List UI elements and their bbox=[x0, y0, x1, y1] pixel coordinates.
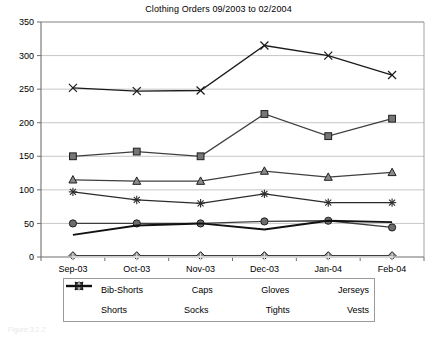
series-caps bbox=[70, 111, 396, 160]
star-marker-icon bbox=[69, 303, 99, 317]
data-point-marker bbox=[196, 199, 204, 207]
square-marker-icon bbox=[70, 153, 77, 160]
legend-item-label: Gloves bbox=[259, 285, 289, 295]
series-line bbox=[73, 114, 392, 156]
legend-item-label: Socks bbox=[182, 305, 209, 315]
data-point-marker bbox=[260, 167, 268, 174]
legend-item-label: Vests bbox=[345, 305, 369, 315]
data-point-marker bbox=[69, 188, 77, 196]
x-marker-icon bbox=[306, 283, 336, 297]
legend-item-socks[interactable]: Socks bbox=[152, 303, 209, 317]
square-marker-icon bbox=[133, 148, 140, 155]
data-point-marker bbox=[389, 115, 396, 122]
y-axis-tick-label: 0 bbox=[29, 252, 34, 262]
legend-item-tights[interactable]: Tights bbox=[234, 303, 290, 317]
y-axis-tick-label: 50 bbox=[24, 219, 34, 229]
series-gloves bbox=[69, 167, 396, 184]
circle-marker-icon bbox=[261, 218, 268, 225]
data-point-marker bbox=[388, 71, 396, 79]
data-point-marker bbox=[69, 220, 76, 227]
x-axis-tick-label: Jan-04 bbox=[314, 264, 342, 274]
circle-marker-icon bbox=[69, 220, 76, 227]
data-point-marker bbox=[324, 198, 332, 206]
legend-item-label: Jerseys bbox=[336, 285, 369, 295]
square-marker-icon bbox=[160, 283, 190, 297]
square-marker-icon bbox=[325, 133, 332, 140]
data-point-marker bbox=[325, 133, 332, 140]
data-point-marker bbox=[261, 218, 268, 225]
data-point-marker bbox=[133, 196, 141, 204]
triangle-marker-icon bbox=[388, 168, 396, 175]
legend-item-label: Tights bbox=[264, 305, 290, 315]
legend-item-jerseys[interactable]: Jerseys bbox=[306, 283, 369, 297]
legend-item-shorts[interactable]: Shorts bbox=[69, 303, 127, 317]
y-axis-tick-label: 350 bbox=[19, 17, 34, 27]
square-marker-icon bbox=[261, 111, 268, 118]
data-point-marker bbox=[133, 148, 140, 155]
data-point-marker bbox=[388, 198, 396, 206]
data-point-marker bbox=[388, 224, 395, 231]
circle-marker-icon bbox=[388, 224, 395, 231]
x-axis-tick-label: Dec-03 bbox=[250, 264, 279, 274]
series-line bbox=[73, 192, 392, 203]
legend-item-caps[interactable]: Caps bbox=[160, 283, 213, 297]
circle-marker-icon bbox=[152, 303, 182, 317]
series-line bbox=[73, 46, 392, 92]
chart-legend: Bib-ShortsCapsGlovesJerseys ShortsSocksT… bbox=[63, 278, 375, 322]
data-point-marker bbox=[388, 168, 396, 175]
series-line bbox=[73, 171, 392, 181]
y-axis-tick-label: 150 bbox=[19, 151, 34, 161]
legend-item-label: Shorts bbox=[99, 305, 127, 315]
square-marker-icon bbox=[389, 115, 396, 122]
y-axis-tick-label: 200 bbox=[19, 118, 34, 128]
data-point-marker bbox=[197, 153, 204, 160]
y-axis-tick-label: 300 bbox=[19, 51, 34, 61]
figure-caption: Figure 3.2.2 bbox=[8, 326, 45, 333]
legend-item-label: Caps bbox=[190, 285, 213, 295]
series-shorts bbox=[69, 188, 397, 208]
y-axis-tick-label: 250 bbox=[19, 84, 34, 94]
x-axis-tick-label: Feb-04 bbox=[378, 264, 407, 274]
triangle-marker-icon bbox=[229, 283, 259, 297]
plus-marker-icon bbox=[234, 303, 264, 317]
triangle-marker-icon bbox=[260, 167, 268, 174]
legend-item-label: Bib-Shorts bbox=[99, 285, 143, 295]
data-point-marker bbox=[260, 190, 268, 198]
series-jerseys bbox=[69, 42, 396, 96]
line-marker-icon bbox=[64, 279, 94, 293]
legend-item-vests[interactable]: Vests bbox=[315, 303, 369, 317]
chart-figure: Clothing Orders 09/2003 to 02/2004 05010… bbox=[0, 0, 437, 338]
x-axis-tick-label: Oct-03 bbox=[123, 264, 150, 274]
square-marker-icon bbox=[197, 153, 204, 160]
line-marker-icon bbox=[315, 303, 345, 317]
data-point-marker bbox=[70, 153, 77, 160]
legend-row-2: ShortsSocksTightsVests bbox=[64, 300, 374, 320]
x-axis-tick-label: Nov-03 bbox=[186, 264, 215, 274]
legend-item-gloves[interactable]: Gloves bbox=[229, 283, 289, 297]
data-point-marker bbox=[261, 111, 268, 118]
y-axis-tick-label: 100 bbox=[19, 185, 34, 195]
legend-row-1: Bib-ShortsCapsGlovesJerseys bbox=[64, 280, 374, 300]
x-axis-tick-label: Sep-03 bbox=[58, 264, 87, 274]
